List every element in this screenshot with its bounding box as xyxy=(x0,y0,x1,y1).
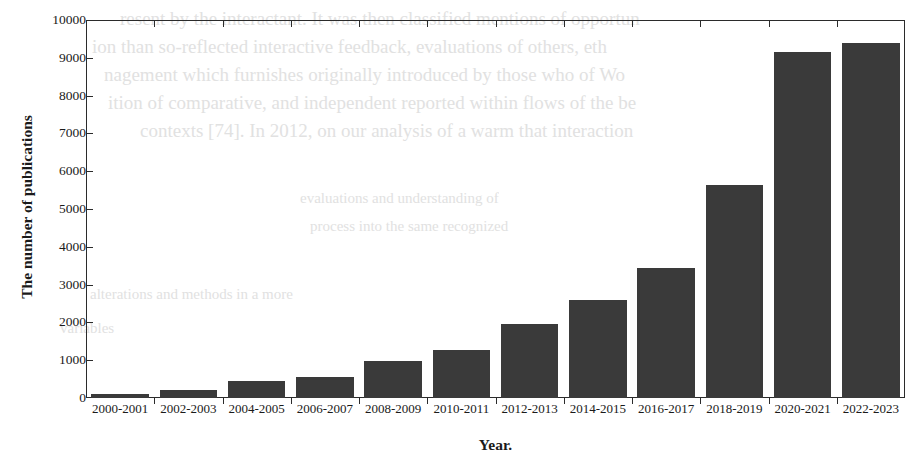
x-tick-mark-top xyxy=(700,21,701,27)
x-tick-label: 2020-2021 xyxy=(774,402,830,415)
y-tick-label: 10000 xyxy=(10,13,86,27)
bar xyxy=(296,377,354,398)
bar xyxy=(228,381,286,398)
x-tick-mark-top xyxy=(223,21,224,27)
y-tick-label: 0 xyxy=(10,391,86,405)
x-tick-label: 2008-2009 xyxy=(365,402,421,415)
x-tick-mark-top xyxy=(496,21,497,27)
x-tick-mark-top xyxy=(359,21,360,27)
bar xyxy=(706,185,764,398)
x-tick-mark-top xyxy=(837,21,838,27)
y-tick-label: 8000 xyxy=(10,89,86,103)
x-tick-label: 2004-2005 xyxy=(228,402,284,415)
x-tick-label: 2018-2019 xyxy=(706,402,762,415)
bar xyxy=(433,350,491,398)
x-tick-mark-top xyxy=(154,21,155,27)
x-tick-label: 2010-2011 xyxy=(433,402,489,415)
y-tick-label: 2000 xyxy=(10,316,86,330)
bars-container xyxy=(86,20,905,398)
bar xyxy=(364,361,422,398)
x-tick-mark-top xyxy=(564,21,565,27)
bar xyxy=(774,52,832,398)
y-tick-label: 5000 xyxy=(10,202,86,216)
x-tick-label: 2014-2015 xyxy=(570,402,626,415)
x-axis-title: Year. xyxy=(86,436,905,454)
x-tick-mark-top xyxy=(632,21,633,27)
bar xyxy=(501,324,559,398)
x-tick-mark-top xyxy=(769,21,770,27)
y-tick-label: 3000 xyxy=(10,278,86,292)
x-tick-label: 2022-2023 xyxy=(843,402,899,415)
y-tick-label: 6000 xyxy=(10,164,86,178)
x-axis-labels: 2000-20012002-20032004-20052006-20072008… xyxy=(86,402,905,426)
x-tick-mark-top xyxy=(427,21,428,27)
y-tick-label: 9000 xyxy=(10,51,86,65)
x-tick-label: 2002-2003 xyxy=(160,402,216,415)
bar xyxy=(569,300,627,398)
bar xyxy=(637,268,695,398)
y-axis: 0100020003000400050006000700080009000100… xyxy=(0,0,86,464)
bar xyxy=(842,43,900,398)
y-tick-label: 4000 xyxy=(10,240,86,254)
y-tick-label: 7000 xyxy=(10,127,86,141)
bar-chart: The number of publications 0100020003000… xyxy=(0,0,922,464)
bar xyxy=(91,394,149,398)
x-tick-label: 2006-2007 xyxy=(297,402,353,415)
x-tick-label: 2012-2013 xyxy=(501,402,557,415)
bar xyxy=(160,390,218,398)
x-tick-label: 2000-2001 xyxy=(92,402,148,415)
x-tick-label: 2016-2017 xyxy=(638,402,694,415)
x-tick-mark-top xyxy=(291,21,292,27)
y-tick-label: 1000 xyxy=(10,353,86,367)
